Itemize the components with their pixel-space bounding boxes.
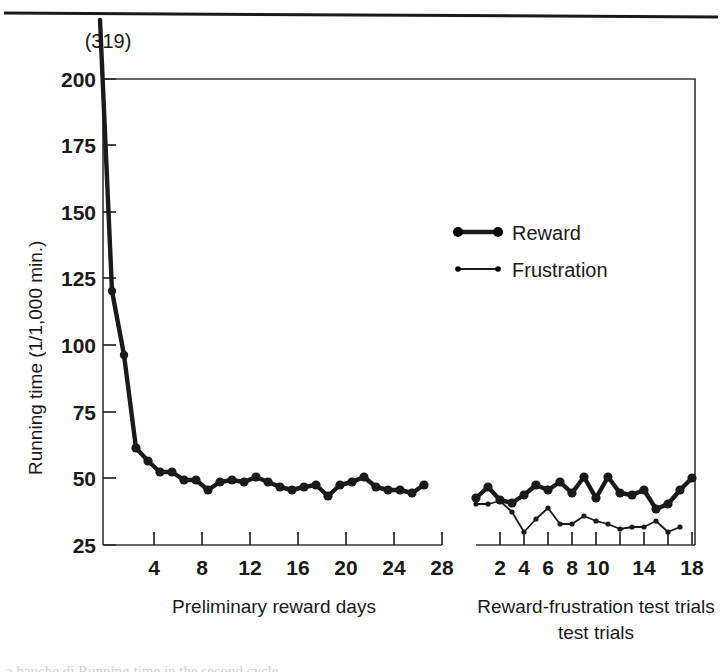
- figure-root: 200 175 150 125 100 75 50 25 Running tim…: [0, 0, 721, 672]
- x-tick-label-28: 28: [430, 556, 454, 579]
- x-tick-label-t18: 18: [680, 556, 704, 579]
- x-tick-label-16: 16: [286, 556, 309, 579]
- x-tick-label-8: 8: [196, 556, 208, 579]
- y-tick-label-125: 125: [61, 267, 96, 290]
- legend-label-frustration: Frustration: [512, 259, 608, 281]
- left-panel-x-axis-title: Preliminary reward days: [172, 596, 376, 617]
- top-rule: [4, 13, 718, 17]
- y-tick-label-175: 175: [61, 134, 96, 157]
- partial-caption: a bauche di Running time in the second c…: [0, 658, 721, 672]
- y-tick-label-150: 150: [61, 201, 96, 224]
- left-panel-reward-series: [100, 20, 429, 501]
- right-panel-x-ticks: [500, 532, 692, 545]
- legend-swatch-reward-dot-left: [453, 227, 463, 237]
- reward-line-left: [100, 20, 424, 496]
- x-tick-label-t8: 8: [566, 556, 578, 579]
- x-tick-label-24: 24: [382, 556, 406, 579]
- left-panel-x-ticks: [154, 532, 442, 545]
- legend-swatch-frustration-dot-right: [495, 266, 501, 272]
- right-panel-x-axis-title-line1: Reward-frustration test trials: [477, 596, 715, 617]
- y-tick-label-75: 75: [73, 401, 97, 424]
- x-tick-label-12: 12: [238, 556, 261, 579]
- chart-svg: 200 175 150 125 100 75 50 25 Running tim…: [0, 0, 721, 672]
- x-tick-label-t14: 14: [632, 556, 656, 579]
- right-panel-reward-series: [471, 472, 696, 513]
- right-panel-x-tick-labels: 2 4 6 8 10 14 18: [494, 556, 704, 579]
- legend-entry-frustration[interactable]: Frustration: [455, 259, 607, 281]
- y-tick-label-50: 50: [73, 467, 96, 490]
- annotation-319: (319): [85, 30, 132, 52]
- legend-swatch-frustration-dot-left: [455, 266, 461, 272]
- legend-swatch-reward-dot-right: [493, 227, 503, 237]
- x-tick-label-t2: 2: [494, 556, 506, 579]
- left-panel-x-tick-labels: 4 8 12 16 20 24 28: [148, 556, 454, 579]
- x-tick-label-20: 20: [334, 556, 357, 579]
- y-axis-tick-labels: 200 175 150 125 100 75 50 25: [61, 68, 96, 557]
- legend: Reward Frustration: [453, 222, 608, 281]
- x-tick-label-4: 4: [148, 556, 160, 579]
- y-tick-label-200: 200: [61, 68, 96, 91]
- x-tick-label-t6: 6: [542, 556, 554, 579]
- x-tick-label-t10: 10: [586, 556, 609, 579]
- legend-entry-reward[interactable]: Reward: [453, 222, 581, 244]
- y-tick-label-25: 25: [73, 534, 97, 557]
- y-axis-title: Running time (1/1,000 min.): [25, 241, 46, 475]
- legend-label-reward: Reward: [512, 222, 581, 244]
- y-tick-label-100: 100: [61, 334, 96, 357]
- frustration-line-right: [476, 501, 680, 532]
- x-tick-label-t4: 4: [518, 556, 530, 579]
- right-panel-x-axis-title-line2: test trials: [558, 622, 634, 643]
